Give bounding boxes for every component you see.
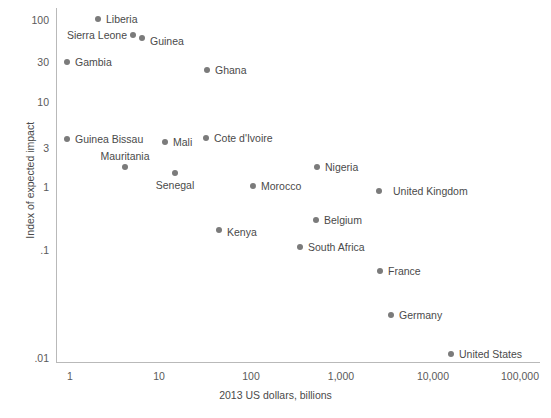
point-marker bbox=[139, 35, 145, 41]
point-label: Belgium bbox=[324, 215, 362, 226]
point-label: South Africa bbox=[308, 242, 365, 253]
point-marker bbox=[388, 312, 394, 318]
x-tick-label: 10,000 bbox=[417, 371, 449, 382]
point-label: Germany bbox=[399, 310, 442, 321]
point-label: Liberia bbox=[106, 14, 138, 25]
y-tick-label: 100 bbox=[0, 15, 49, 26]
x-axis-title: 2013 US dollars, billions bbox=[0, 390, 551, 401]
y-axis-line bbox=[56, 8, 57, 362]
point-label: France bbox=[388, 266, 421, 277]
x-tick-label: 10 bbox=[153, 371, 165, 382]
point-marker bbox=[64, 136, 70, 142]
scatter-chart: 100301031.1.01 1101001,00010,000100,000 … bbox=[0, 0, 551, 418]
point-marker bbox=[313, 217, 319, 223]
point-label: Gambia bbox=[75, 57, 112, 68]
point-marker bbox=[122, 164, 128, 170]
x-tick-label: 100,000 bbox=[501, 371, 539, 382]
point-marker bbox=[376, 188, 382, 194]
point-marker bbox=[314, 164, 320, 170]
point-label: Morocco bbox=[261, 181, 301, 192]
point-marker bbox=[203, 135, 209, 141]
x-tick-label: 1,000 bbox=[328, 371, 354, 382]
y-axis-title: Index of expected impact bbox=[25, 90, 36, 270]
point-marker bbox=[172, 170, 178, 176]
point-marker bbox=[448, 351, 454, 357]
point-label: Sierra Leone bbox=[0, 30, 127, 41]
point-label: Mali bbox=[173, 137, 192, 148]
x-tick-label: 1 bbox=[67, 371, 73, 382]
x-axis-line bbox=[56, 362, 540, 363]
point-label: Guinea Bissau bbox=[75, 134, 143, 145]
point-label: United States bbox=[459, 349, 522, 360]
point-label: Mauritania bbox=[100, 151, 149, 162]
point-label: Kenya bbox=[227, 227, 257, 238]
point-marker bbox=[162, 139, 168, 145]
point-marker bbox=[64, 59, 70, 65]
point-marker bbox=[250, 183, 256, 189]
point-marker bbox=[204, 67, 210, 73]
point-label: Senegal bbox=[156, 180, 195, 191]
point-label: United Kingdom bbox=[393, 186, 468, 197]
point-label: Guinea bbox=[150, 36, 184, 47]
point-marker bbox=[377, 268, 383, 274]
point-marker bbox=[216, 227, 222, 233]
point-label: Ghana bbox=[215, 65, 247, 76]
y-tick-label: .01 bbox=[0, 353, 49, 364]
point-marker bbox=[95, 16, 101, 22]
point-marker bbox=[130, 32, 136, 38]
x-tick-label: 100 bbox=[242, 371, 260, 382]
point-label: Cote d'Ivoire bbox=[214, 133, 273, 144]
point-label: Nigeria bbox=[325, 162, 358, 173]
y-tick-label: 30 bbox=[0, 57, 49, 68]
point-marker bbox=[297, 244, 303, 250]
